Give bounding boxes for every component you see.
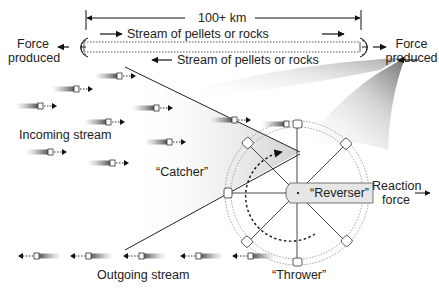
diagram-canvas — [0, 0, 439, 293]
outgoing-stream-label: Outgoing stream — [97, 268, 189, 282]
force-left-label: Force produced — [8, 37, 58, 65]
reverser-label: “Reverser” — [310, 186, 369, 200]
reaction-force-label: Reaction force — [372, 179, 420, 207]
incoming-stream-label: Incoming stream — [19, 128, 111, 142]
force-right-label: Force produced — [384, 37, 439, 65]
outgoing-pellets — [18, 253, 275, 259]
thrower-label: “Thrower” — [272, 268, 326, 282]
distance-label: 100+ km — [198, 11, 246, 25]
catcher-label: “Catcher” — [156, 165, 208, 179]
stream-top-label: Stream of pellets or rocks — [127, 27, 269, 41]
stream-bottom-label: Stream of pellets or rocks — [177, 53, 319, 67]
pellet-stream-diagram: 100+ km Stream of pellets or rocks Strea… — [0, 0, 439, 293]
